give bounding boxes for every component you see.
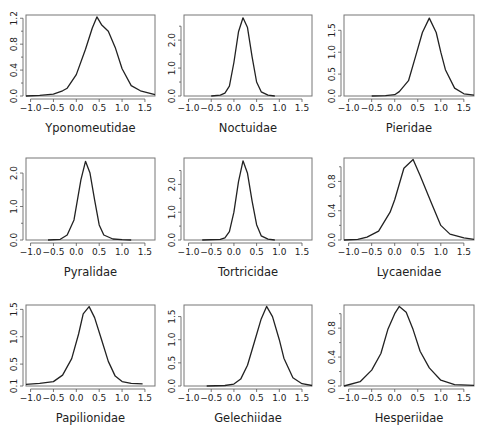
x-tick-label: −0.5 xyxy=(361,247,383,257)
panel-title: Tortricidae xyxy=(217,265,278,279)
y-tick-label: 0.0 xyxy=(167,89,177,104)
x-tick-label: 1.5 xyxy=(295,393,309,403)
y-tick-label: 0.8 xyxy=(9,37,19,52)
panel-papilionidae: −1.0−0.50.00.51.01.50.10.51.01.5Papilion… xyxy=(9,302,155,425)
x-tick-label: 1.5 xyxy=(457,393,471,403)
y-tick-label: 0.0 xyxy=(167,233,177,248)
y-axis: 0.00.40.81.2 xyxy=(9,11,23,103)
y-axis: 0.00.40.8 xyxy=(327,167,341,247)
x-axis: −1.0−0.50.00.51.01.5 xyxy=(20,99,152,113)
y-tick-label: 0.8 xyxy=(327,174,337,189)
y-tick-label: 0.4 xyxy=(327,350,337,365)
x-axis: −1.0−0.50.00.51.01.5 xyxy=(338,243,471,257)
y-tick-label: 0.0 xyxy=(327,89,337,104)
panel-tortricidae: −1.0−0.50.00.51.01.50.01.02.0Tortricidae xyxy=(167,158,312,279)
x-tick-label: −0.5 xyxy=(43,247,65,257)
panel-title: Gelechiidae xyxy=(214,411,282,425)
y-tick-label: 0.0 xyxy=(9,89,19,104)
y-tick-label: 2.0 xyxy=(167,177,177,192)
x-tick-label: −1.0 xyxy=(178,103,200,113)
plot-frame xyxy=(344,305,474,386)
panel-lycaenidae: −1.0−0.50.00.51.01.50.00.40.8Lycaenidae xyxy=(327,158,474,279)
x-tick-label: 1.5 xyxy=(295,103,309,113)
y-tick-label: 0.0 xyxy=(167,379,177,394)
x-tick-label: 1.0 xyxy=(115,247,130,257)
x-tick-label: 0.5 xyxy=(92,247,106,257)
y-axis: 0.01.02.0 xyxy=(167,171,181,248)
x-tick-label: 1.0 xyxy=(272,103,287,113)
x-tick-label: −1.0 xyxy=(178,247,200,257)
panel-noctuidae: −1.0−0.50.00.51.01.50.01.02.0Noctuidae xyxy=(167,15,312,135)
density-curve xyxy=(26,17,155,96)
x-tick-label: 1.0 xyxy=(272,393,287,403)
x-tick-label: 0.0 xyxy=(69,247,84,257)
y-axis: 0.00.51.01.5 xyxy=(327,23,341,103)
y-tick-label: 1.5 xyxy=(9,302,19,316)
x-tick-label: 1.5 xyxy=(138,393,152,403)
x-axis: −1.0−0.50.00.51.01.5 xyxy=(178,389,310,403)
x-tick-label: 0.0 xyxy=(69,393,84,403)
x-tick-label: −1.0 xyxy=(20,393,42,403)
x-tick-label: 0.0 xyxy=(388,393,403,403)
panel-title: Pyralidae xyxy=(64,265,117,279)
y-tick-label: 1.5 xyxy=(167,309,177,323)
y-tick-label: 0.1 xyxy=(9,379,19,393)
density-curve xyxy=(26,307,143,385)
density-curve xyxy=(207,306,312,386)
x-axis: −1.0−0.50.00.51.01.5 xyxy=(20,389,152,403)
panel-title: Lycaenidae xyxy=(377,265,442,279)
x-tick-label: 1.0 xyxy=(115,103,130,113)
density-curve xyxy=(202,161,275,240)
panel-yponomeutidae: −1.0−0.50.00.51.01.50.00.40.81.2Yponomeu… xyxy=(9,11,155,135)
plot-frame xyxy=(344,158,474,240)
panel-title: Hesperiidae xyxy=(375,411,444,425)
plot-frame xyxy=(184,305,312,386)
x-tick-label: 0.5 xyxy=(249,103,263,113)
y-tick-label: 0.0 xyxy=(327,379,337,394)
x-tick-label: 0.0 xyxy=(69,103,84,113)
x-tick-label: −1.0 xyxy=(338,247,360,257)
x-tick-label: −0.5 xyxy=(200,247,222,257)
x-axis: −1.0−0.50.00.51.01.5 xyxy=(20,243,152,257)
panel-hesperiidae: −1.0−0.50.00.51.01.50.00.40.8Hesperiidae xyxy=(327,305,474,425)
plot-frame xyxy=(344,15,474,96)
y-tick-label: 0.4 xyxy=(9,63,19,78)
y-axis: 0.00.40.8 xyxy=(327,314,341,393)
y-tick-label: 0.8 xyxy=(327,321,337,336)
panel-pieridae: −1.0−0.50.00.51.01.50.00.51.01.5Pieridae xyxy=(327,15,474,135)
x-tick-label: 0.5 xyxy=(249,393,263,403)
y-tick-label: 0.5 xyxy=(327,67,337,81)
panel-title: Pieridae xyxy=(386,121,432,135)
y-tick-label: 0.5 xyxy=(9,357,19,371)
y-tick-label: 1.0 xyxy=(167,61,177,76)
x-tick-label: 0.5 xyxy=(92,393,106,403)
y-tick-label: 0.5 xyxy=(167,356,177,370)
x-tick-label: −0.5 xyxy=(361,103,383,113)
plot-frame xyxy=(26,305,155,386)
x-tick-label: 1.0 xyxy=(434,103,449,113)
panel-title: Yponomeutidae xyxy=(44,121,135,135)
plot-frame xyxy=(184,158,312,240)
x-tick-label: −1.0 xyxy=(178,393,200,403)
x-tick-label: 1.5 xyxy=(295,247,309,257)
x-tick-label: 0.0 xyxy=(388,247,403,257)
y-tick-label: 1.0 xyxy=(9,329,19,344)
x-tick-label: 0.5 xyxy=(92,103,106,113)
density-curve xyxy=(211,18,275,96)
x-tick-label: 1.5 xyxy=(138,103,152,113)
x-tick-label: 1.0 xyxy=(434,247,449,257)
x-tick-label: −1.0 xyxy=(338,393,360,403)
density-curve xyxy=(372,18,474,96)
y-tick-label: 1.2 xyxy=(9,11,19,25)
density-curve xyxy=(344,306,474,386)
y-axis: 0.01.02.0 xyxy=(9,166,23,248)
x-tick-label: −0.5 xyxy=(200,103,222,113)
plot-frame xyxy=(26,15,155,96)
y-tick-label: 0.0 xyxy=(9,233,19,248)
x-tick-label: 1.0 xyxy=(272,247,287,257)
y-axis: 0.01.02.0 xyxy=(167,26,181,103)
x-tick-label: 0.0 xyxy=(388,103,403,113)
x-axis: −1.0−0.50.00.51.01.5 xyxy=(338,389,471,403)
y-tick-label: 1.0 xyxy=(167,332,177,347)
x-tick-label: −1.0 xyxy=(20,247,42,257)
